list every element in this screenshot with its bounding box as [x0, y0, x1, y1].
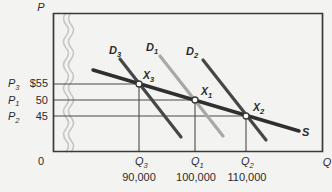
price-axis-label: P [37, 1, 45, 13]
quantity-value-100000: 100,000 [176, 171, 216, 183]
price-value-45: 45 [36, 110, 48, 122]
supply-demand-chart: P 0 Q P3 $55 P1 50 P2 45 Q3 90,000 Q1 10… [0, 0, 332, 192]
quantity-axis-label: Q [323, 156, 332, 168]
equilibrium-point-x2 [243, 113, 249, 119]
price-value-55: $55 [30, 77, 48, 89]
equilibrium-point-x3 [136, 81, 142, 87]
quantity-value-110000: 110,000 [228, 171, 267, 183]
price-value-50: 50 [36, 94, 48, 106]
chart-canvas: P 0 Q P3 $55 P1 50 P2 45 Q3 90,000 Q1 10… [0, 0, 332, 192]
equilibrium-point-x1 [192, 97, 198, 103]
chart-background [0, 0, 332, 192]
supply-label-s: S [302, 126, 310, 138]
quantity-value-90000: 90,000 [122, 171, 156, 183]
origin-label: 0 [38, 155, 44, 167]
